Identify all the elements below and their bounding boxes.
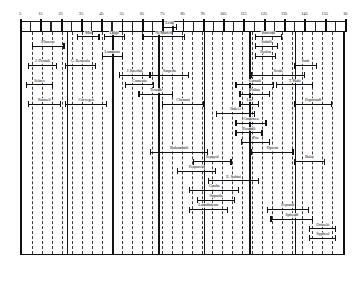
gridline bbox=[152, 32, 153, 254]
range-bar-line bbox=[197, 200, 236, 201]
range-bar-line bbox=[309, 238, 336, 239]
range-bar-endcap bbox=[309, 235, 310, 241]
range-bar-line bbox=[189, 190, 239, 191]
range-bar-label: J. Interlati bbox=[126, 69, 143, 74]
section-divider bbox=[249, 32, 251, 254]
gridline bbox=[272, 32, 273, 254]
axis-tick-label: 35 bbox=[79, 11, 83, 16]
range-bar-label: Sektes bbox=[34, 79, 46, 84]
range-bar-line bbox=[162, 104, 205, 105]
range-bar-endcap bbox=[275, 53, 276, 59]
range-bar-line bbox=[276, 84, 313, 85]
range-bar-endcap bbox=[162, 101, 163, 107]
range-bar-label: J. Dentali bbox=[34, 59, 50, 64]
range-bar-endcap bbox=[241, 139, 242, 145]
range-bar-label: Bulai bbox=[304, 155, 314, 160]
range-bar-endcap bbox=[235, 120, 236, 126]
axis-tick-label: 155 bbox=[322, 11, 328, 16]
gridline bbox=[282, 32, 283, 254]
range-bar-endcap bbox=[26, 82, 27, 88]
range-bar-line bbox=[142, 36, 185, 37]
range-bar-endcap bbox=[230, 159, 231, 165]
range-bar-label: Ruoneli bbox=[37, 98, 51, 103]
range-bar-endcap bbox=[316, 63, 317, 69]
range-bar-line bbox=[102, 56, 123, 57]
range-bar-line bbox=[162, 27, 178, 28]
range-bar-endcap bbox=[52, 82, 53, 88]
range-bar-endcap bbox=[28, 63, 29, 69]
range-bar-endcap bbox=[234, 197, 235, 203]
range-bar-endcap bbox=[104, 34, 105, 40]
gridline bbox=[262, 32, 263, 254]
range-bar-endcap bbox=[292, 149, 293, 155]
range-bar-label: Gunlia bbox=[208, 184, 220, 189]
range-bar-endcap bbox=[255, 53, 256, 59]
chart-frame: PlioceneMioOligoN. MarfetiLentiSarrentii… bbox=[20, 31, 345, 255]
range-bar-label: Senki bbox=[273, 69, 283, 74]
range-bar-line bbox=[65, 104, 108, 105]
axis-tick-minor bbox=[152, 21, 153, 31]
range-bar-label: Dpersti bbox=[266, 146, 279, 151]
gridline bbox=[182, 32, 183, 254]
range-bar-endcap bbox=[239, 91, 240, 97]
range-bar-endcap bbox=[294, 101, 295, 107]
range-bar-line bbox=[235, 123, 266, 124]
range-bar-endcap bbox=[150, 72, 151, 78]
range-bar-label: Cmoenea bbox=[243, 117, 259, 122]
range-bar-endcap bbox=[177, 168, 178, 174]
range-bar-line bbox=[294, 65, 317, 66]
range-bar-endcap bbox=[95, 63, 96, 69]
range-bar-endcap bbox=[294, 63, 295, 69]
range-bar-endcap bbox=[162, 24, 163, 30]
range-bar-line bbox=[125, 84, 154, 85]
axis-tick-label: 45 bbox=[99, 11, 103, 16]
axis-tick-minor bbox=[254, 21, 255, 31]
gridline bbox=[232, 32, 233, 254]
range-bar-line bbox=[251, 152, 294, 153]
range-bar-label: G. Benicula bbox=[70, 59, 90, 64]
range-bar-endcap bbox=[331, 101, 332, 107]
section-divider bbox=[158, 32, 160, 254]
range-bar-endcap bbox=[150, 149, 151, 155]
range-bar-line bbox=[270, 219, 313, 220]
range-bar-label: Intlei.i bbox=[230, 107, 241, 112]
range-bar-line bbox=[177, 171, 216, 172]
range-bar-endcap bbox=[65, 63, 66, 69]
range-bar-label: Rukombirli bbox=[169, 146, 189, 151]
axis-tick-label: 10 bbox=[343, 11, 347, 16]
range-bar-line bbox=[239, 104, 258, 105]
range-bar-endcap bbox=[308, 207, 309, 213]
range-bar-label: Palina bbox=[249, 88, 260, 93]
range-bar-line bbox=[208, 180, 258, 181]
range-bar-label: Camenia bbox=[132, 79, 147, 84]
range-bar-endcap bbox=[189, 187, 190, 193]
range-bar-label: Orisseki bbox=[316, 223, 330, 228]
range-bar-endcap bbox=[32, 43, 33, 49]
range-bar-line bbox=[193, 161, 232, 162]
range-bar-line bbox=[239, 94, 270, 95]
gridline bbox=[252, 32, 253, 254]
gridline bbox=[222, 32, 223, 254]
range-bar-endcap bbox=[176, 24, 177, 30]
range-bar-endcap bbox=[238, 187, 239, 193]
gridline bbox=[122, 32, 123, 254]
range-bar-endcap bbox=[273, 82, 274, 88]
range-bar-label: Lamensis bbox=[104, 50, 120, 55]
axis-tick-label: 75 bbox=[160, 11, 164, 16]
range-bar-line bbox=[119, 75, 150, 76]
range-bar-line bbox=[150, 75, 189, 76]
range-bar-endcap bbox=[227, 207, 228, 213]
range-bar-endcap bbox=[203, 101, 204, 107]
range-bar-endcap bbox=[269, 91, 270, 97]
range-bar-line bbox=[294, 161, 325, 162]
range-bar-label: Ecuptili bbox=[242, 127, 256, 132]
range-bar-label: Pepundi bbox=[281, 203, 295, 208]
axis-tick-label: 95 bbox=[201, 11, 205, 16]
range-bar-endcap bbox=[281, 34, 282, 40]
section-divider bbox=[204, 32, 206, 254]
axis-tick-label: 5 bbox=[19, 11, 21, 16]
axis-tick-label: 85 bbox=[180, 11, 184, 16]
range-bar-line bbox=[26, 84, 53, 85]
axis-tick-minor bbox=[193, 21, 194, 31]
range-bar-line bbox=[150, 152, 208, 153]
